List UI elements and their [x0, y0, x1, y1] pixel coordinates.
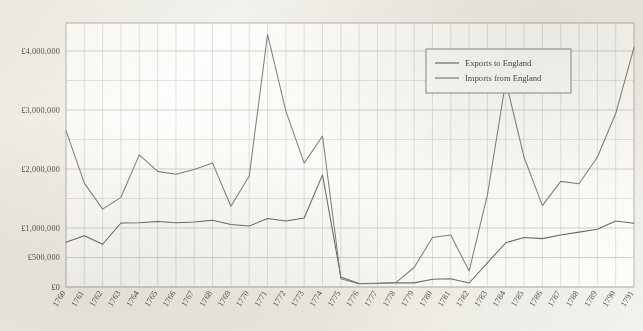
- x-axis-tick-label: 1769: [216, 289, 233, 308]
- x-axis-tick-label: 1777: [363, 289, 380, 308]
- chart-legend[interactable]: Exports to EnglandImports from England: [426, 49, 571, 93]
- x-axis-tick-label: 1781: [436, 289, 453, 308]
- chart-canvas: £0£500,000£1,000,000£2,000,000£3,000,000…: [0, 0, 643, 331]
- x-axis-tick-label: 1783: [473, 289, 490, 308]
- y-axis-tick-label: £2,000,000: [21, 165, 60, 174]
- y-axis-tick-label: £500,000: [28, 253, 60, 262]
- x-axis-tick-label: 1779: [399, 289, 416, 308]
- x-axis-tick-label: 1785: [509, 289, 526, 308]
- x-axis-tick-label: 1775: [326, 289, 343, 308]
- x-axis-tick-label: 1789: [583, 289, 600, 308]
- x-axis-tick-label: 1788: [564, 289, 581, 308]
- x-axis-tick-label: 1761: [70, 289, 87, 308]
- x-axis-tick-label: 1772: [271, 289, 288, 308]
- y-axis-tick-label: £1,000,000: [21, 224, 60, 233]
- x-axis-tick-label: 1760: [51, 289, 68, 308]
- y-axis-tick-labels: £0£500,000£1,000,000£2,000,000£3,000,000…: [21, 47, 60, 292]
- x-axis-tick-label: 1767: [179, 289, 196, 308]
- x-axis-tick-label: 1763: [106, 289, 123, 308]
- x-axis-tick-label: 1784: [491, 289, 508, 309]
- trade-line-chart: £0£500,000£1,000,000£2,000,000£3,000,000…: [0, 0, 643, 331]
- x-axis-tick-label: 1771: [253, 289, 270, 308]
- x-axis-tick-label: 1782: [454, 289, 471, 308]
- x-axis-tick-label: 1765: [143, 289, 160, 308]
- x-axis-tick-label: 1780: [418, 289, 435, 308]
- x-axis-tick-label: 1776: [344, 289, 361, 308]
- y-axis-tick-label: £4,000,000: [21, 47, 60, 56]
- x-axis-tick-label: 1787: [546, 289, 563, 308]
- x-axis-tick-label: 1768: [198, 289, 215, 308]
- x-axis-tick-label: 1790: [601, 289, 618, 308]
- x-axis-tick-label: 1773: [289, 289, 306, 308]
- x-axis-tick-label: 1764: [124, 289, 141, 309]
- x-axis-tick-labels: 1760176117621763176417651766176717681769…: [51, 289, 636, 309]
- x-axis-tick-label: 1774: [308, 289, 325, 309]
- x-axis-tick-label: 1791: [619, 289, 636, 308]
- x-axis-tick-label: 1786: [528, 289, 545, 308]
- y-axis-tick-label: £3,000,000: [21, 106, 60, 115]
- x-axis-tick-label: 1766: [161, 289, 178, 308]
- legend-label[interactable]: Exports to England: [465, 58, 532, 68]
- x-axis-tick-label: 1762: [88, 289, 105, 308]
- legend-label[interactable]: Imports from England: [465, 73, 542, 83]
- x-axis-tick-label: 1778: [381, 289, 398, 308]
- x-axis-tick-label: 1770: [234, 289, 251, 308]
